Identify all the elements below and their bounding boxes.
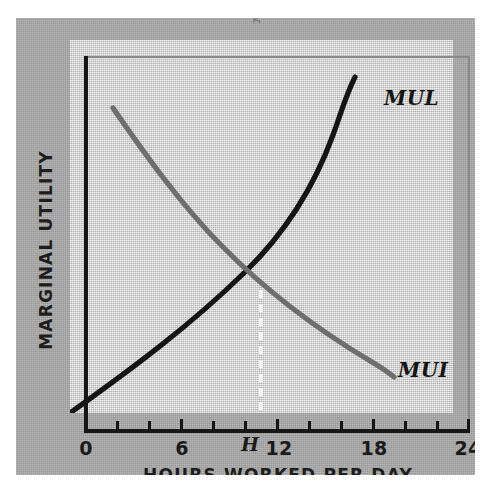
x-tick-label-0: 0 xyxy=(79,437,93,459)
x-tick-0 xyxy=(84,419,87,432)
x-tick-10 xyxy=(244,421,247,432)
x-tick-label-12: 12 xyxy=(265,437,292,459)
x-tick-6 xyxy=(180,419,183,432)
x-tick-16 xyxy=(340,421,343,432)
x-tick-14 xyxy=(308,421,311,432)
equilibrium-label-h: H xyxy=(241,433,259,455)
y-axis-line xyxy=(84,56,88,433)
plot-frame-right xyxy=(468,56,470,431)
x-tick-8 xyxy=(212,421,215,432)
figure-plate: g 0 6 12 18 24 H HOURS WORKED PER DAY MA… xyxy=(16,18,475,475)
x-tick-4 xyxy=(148,421,151,432)
x-tick-12 xyxy=(276,419,279,432)
curve-label-mui: MUI xyxy=(398,358,448,382)
curve-mul xyxy=(70,77,355,413)
curve-mui xyxy=(113,108,394,377)
x-tick-2 xyxy=(116,421,119,432)
x-tick-label-6: 6 xyxy=(175,437,189,459)
caption-descender-ghost: g xyxy=(252,18,266,23)
x-tick-label-24: 24 xyxy=(454,437,475,459)
x-tick-label-18: 18 xyxy=(360,437,387,459)
curve-label-mul: MUL xyxy=(384,86,439,110)
x-tick-24 xyxy=(467,419,470,432)
x-tick-20 xyxy=(404,421,407,432)
x-axis-title: HOURS WORKED PER DAY xyxy=(86,465,470,475)
x-tick-18 xyxy=(372,419,375,432)
y-axis-title: MARGINAL UTILITY xyxy=(36,100,56,400)
x-tick-22 xyxy=(436,421,439,432)
